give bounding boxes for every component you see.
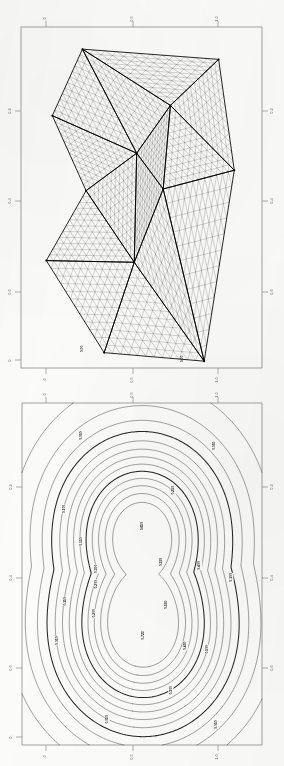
contour-level-label: 0.550	[164, 600, 168, 609]
contour-level-label: 0.300	[169, 686, 173, 695]
mesh-plot-background	[0, 0, 284, 383]
figure-mesh: .0 0.5 1.0 .0 0.5 1.0	[0, 0, 284, 383]
tick-label: 0.	[8, 735, 13, 738]
tick-label: 1.0	[214, 15, 219, 21]
contour-level-label: 0.250	[171, 486, 175, 495]
contour-level-label: 0.150	[63, 597, 67, 606]
contour-level-label: 0.100	[62, 505, 66, 514]
contour-level-label: 0.150	[79, 537, 83, 546]
tick-label: 1.0	[214, 753, 219, 759]
tick-label: 0.	[7, 358, 12, 361]
contour-level-label: 0.650	[140, 522, 144, 531]
tick-label: 0.6	[269, 288, 274, 294]
contour-level-label: 0.200	[92, 609, 96, 618]
tick-label: 0.5	[129, 376, 134, 382]
tick-label: 0.5	[129, 15, 134, 21]
contour-level-label: 0.400	[197, 561, 201, 570]
tick-label: 1.0	[214, 391, 219, 397]
tick-label: 1.0	[214, 376, 219, 382]
contour-level-label: 0.050	[105, 715, 109, 724]
scanned-page: .0 0.5 1.0 .0 0.5 1.0	[0, 0, 284, 766]
tick-label: 0.2	[269, 483, 274, 489]
tick-label: 0.4	[269, 197, 274, 203]
contour-level-label: 0.723	[141, 631, 145, 640]
contour-level-label: 0.050	[212, 441, 216, 450]
figure-contour: .0 0.5 1.0 .0 0.5 1.0	[0, 383, 284, 766]
tick-label: 0.6	[269, 664, 274, 670]
tick-label: 0.4	[7, 197, 12, 203]
tick-label: 0.5	[129, 753, 134, 759]
contour-level-label: 0.450	[183, 641, 187, 650]
node-label: 0.00	[180, 356, 184, 363]
node-label: 0.00	[80, 346, 84, 353]
contour-level-label: 0.500	[205, 645, 209, 654]
mesh-plot-svg: .0 0.5 1.0 .0 0.5 1.0	[0, 0, 284, 383]
contour-level-label: 0.050	[79, 431, 83, 440]
tick-label: 0.4	[269, 574, 274, 580]
contour-level-label: 0.200	[94, 580, 98, 589]
tick-label: 0.4	[8, 574, 13, 580]
tick-label: 0.6	[8, 664, 13, 670]
tick-label: 0.2	[269, 107, 274, 113]
tick-label: 0.6	[7, 288, 12, 294]
contour-level-label: 0.100	[229, 573, 233, 582]
tick-label: 0.5	[129, 391, 134, 397]
tick-label: 0.2	[7, 107, 12, 113]
tick-label: 0.2	[8, 483, 13, 489]
contour-plot-svg: .0 0.5 1.0 .0 0.5 1.0	[0, 383, 284, 766]
contour-level-label: 0.300	[94, 565, 98, 574]
contour-level-label: 0.050	[214, 720, 218, 729]
contour-level-label: 0.050	[55, 636, 59, 645]
contour-level-label: 0.350	[159, 558, 163, 567]
